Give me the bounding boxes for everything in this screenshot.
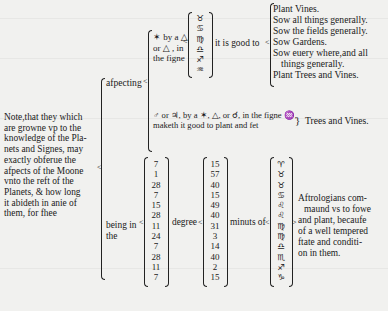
result-item: Sow the fields generally. <box>273 25 368 36</box>
result-item: things generally. <box>273 58 368 69</box>
second-clause-result: Trees and Vines. <box>305 115 369 126</box>
aspecting-label: afpecting <box>106 77 142 88</box>
result-item: Sow euery where,and all <box>273 47 368 58</box>
note-line: Planets, & how long <box>4 187 87 198</box>
degree-value: 15 <box>147 200 165 210</box>
note-line: them, for fhee <box>4 208 87 219</box>
degree-column: 7 1 28 7 15 28 11 24 7 28 11 7 <box>147 159 165 283</box>
virgo-icon: ♍ <box>191 34 209 44</box>
note-line: are growne vp to the <box>4 123 87 134</box>
minutes-label: minuts of <box>230 217 266 228</box>
note-paragraph: Note,that they which are growne vp to th… <box>4 112 87 219</box>
minute-value: 14 <box>206 241 224 251</box>
minute-value: 57 <box>206 169 224 179</box>
brace-point: < <box>198 218 203 227</box>
conclusion-line: maund vs to fowe <box>298 204 371 215</box>
degree-brace-right <box>165 157 169 287</box>
results-list: Plant Vines. Sow all things generally. S… <box>273 3 368 80</box>
minute-value: 40 <box>206 252 224 262</box>
leo-icon: ♌ <box>273 210 289 220</box>
brace-point: > <box>292 218 297 227</box>
conclusion-line: ftate and conditi- <box>298 237 371 248</box>
being-line: being in <box>106 220 136 231</box>
conclusion-line: of a well tempered <box>298 226 371 237</box>
brace-point: < <box>265 38 270 47</box>
result-item: Sow all things generally. <box>273 14 368 25</box>
brace-point: < <box>265 218 270 227</box>
minute-value: 49 <box>206 200 224 210</box>
sagittarius-icon: ♐ <box>273 262 289 272</box>
minute-value: 2 <box>206 262 224 272</box>
note-line: afpects of the Moone <box>4 166 87 177</box>
note-line: knowledge of the Pla- <box>4 133 87 144</box>
signs-column: ♈ ♉ ♉ ♋ ♌ ♌ ♍ ♍ ♎ ♏ ♐ ♑ <box>273 159 289 283</box>
aspecting-brace <box>148 30 152 152</box>
degree-value: 28 <box>147 252 165 262</box>
conclusion-line: Aftrologians com- <box>298 193 371 204</box>
degree-value: 7 <box>147 190 165 200</box>
result-label: it is good to <box>215 38 260 49</box>
minute-value: 15 <box>206 190 224 200</box>
degree-value: 11 <box>147 221 165 231</box>
virgo-icon: ♍ <box>273 231 289 241</box>
leo-icon: ♌ <box>273 200 289 210</box>
degree-value: 7 <box>147 272 165 282</box>
cancer-icon: ♋ <box>273 190 289 200</box>
degree-value: 7 <box>147 241 165 251</box>
conclusion-line: on in them. <box>298 248 371 259</box>
small-brace: } <box>295 110 300 130</box>
note-line: Note,that they which <box>4 112 87 123</box>
main-brace <box>101 78 105 280</box>
taurus-icon: ♉ <box>191 13 209 23</box>
taurus-icon: ♉ <box>273 180 289 190</box>
minutes-column: 15 57 40 15 49 40 31 3 14 40 2 15 <box>206 159 224 283</box>
brace-point: < <box>139 218 144 227</box>
clause-line: the figne <box>153 53 188 64</box>
first-clause-signs: ♉ ♋ ♍ ♎ ♐ ♒ <box>191 13 209 75</box>
note-line: vnto the reft of the <box>4 176 87 187</box>
being-line: the <box>106 231 136 242</box>
bleed-through-line <box>0 268 388 269</box>
sagittarius-icon: ♐ <box>191 54 209 64</box>
minutes-brace-right <box>224 157 228 287</box>
capricorn-icon: ♑ <box>273 272 289 282</box>
degree-value: 28 <box>147 180 165 190</box>
libra-icon: ♎ <box>191 44 209 54</box>
result-item: Sow Gardens. <box>273 36 368 47</box>
minute-value: 15 <box>206 272 224 282</box>
degree-value: 11 <box>147 262 165 272</box>
degree-value: 28 <box>147 210 165 220</box>
conclusion-paragraph: Aftrologians com- maund vs to fowe and p… <box>298 193 371 259</box>
aquarius-icon: ♒ <box>191 64 209 74</box>
scorpio-icon: ♏ <box>273 252 289 262</box>
brace-point: < <box>97 163 102 172</box>
minute-value: 15 <box>206 159 224 169</box>
taurus-icon: ♉ <box>273 169 289 179</box>
minute-value: 40 <box>206 210 224 220</box>
brace-point: < <box>143 77 148 86</box>
libra-icon: ♎ <box>273 241 289 251</box>
clause-line: ♂ or ♃, by a ✶, △, or ☌, in the figne ♒, <box>153 110 297 120</box>
degree-value: 7 <box>147 159 165 169</box>
degree-value: 1 <box>147 169 165 179</box>
degree-value: 24 <box>147 231 165 241</box>
conclusion-line: and plant, becaufe <box>298 215 371 226</box>
aries-icon: ♈ <box>273 159 289 169</box>
minute-value: 31 <box>206 221 224 231</box>
note-line: exactly obferue the <box>4 155 87 166</box>
cancer-icon: ♋ <box>191 23 209 33</box>
signs-brace-right <box>209 12 213 78</box>
minute-value: 40 <box>206 180 224 190</box>
minute-value: 3 <box>206 231 224 241</box>
note-line: it abideth in anie of <box>4 198 87 209</box>
result-item: Plant Trees and Vines. <box>273 69 368 80</box>
brace-point: < <box>183 37 188 46</box>
being-label: being in the <box>106 220 136 242</box>
clause-line: maketh it good to plant and fet <box>153 120 297 130</box>
virgo-icon: ♍ <box>273 221 289 231</box>
document-page: Note,that they which are growne vp to th… <box>0 0 388 311</box>
result-item: Plant Vines. <box>273 3 368 14</box>
degree-label: degree <box>172 217 197 228</box>
second-clause: ♂ or ♃, by a ✶, △, or ☌, in the figne ♒,… <box>153 110 297 131</box>
note-line: nets and Signes, may <box>4 144 87 155</box>
